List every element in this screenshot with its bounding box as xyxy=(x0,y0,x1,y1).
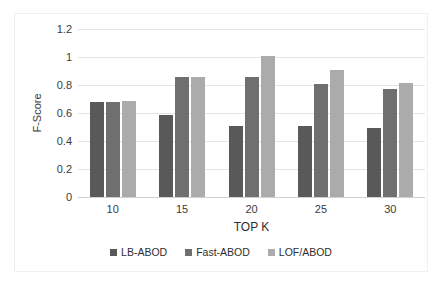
bar[interactable] xyxy=(122,101,136,197)
x-axis-tick-label: 20 xyxy=(217,203,286,215)
legend-item[interactable]: LOF/ABOD xyxy=(268,246,332,258)
y-axis-tick-label: 0 xyxy=(66,192,72,203)
bar-group-bars xyxy=(217,29,286,197)
bar-group: 10 xyxy=(78,29,147,197)
bar[interactable] xyxy=(159,115,173,197)
y-axis-tick-label: 0.4 xyxy=(57,136,72,147)
chart-legend: LB-ABODFast-ABODLOF/ABOD xyxy=(15,246,427,258)
bar[interactable] xyxy=(261,56,275,197)
legend-label: Fast-ABOD xyxy=(196,246,250,258)
bar[interactable] xyxy=(383,89,397,198)
legend-item[interactable]: Fast-ABOD xyxy=(185,246,250,258)
plot-region: 00.20.40.60.811.2 1015202530 xyxy=(78,29,425,197)
bar-groups: 1015202530 xyxy=(78,29,425,197)
legend-label: LOF/ABOD xyxy=(279,246,332,258)
y-axis-tick-label: 0.8 xyxy=(57,80,72,91)
legend-item[interactable]: LB-ABOD xyxy=(110,246,167,258)
bar-group-bars xyxy=(356,29,425,197)
bar-group-bars xyxy=(286,29,355,197)
legend-label: LB-ABOD xyxy=(121,246,167,258)
y-axis-title: F-Score xyxy=(31,93,43,132)
bar[interactable] xyxy=(330,70,344,197)
legend-swatch-icon xyxy=(110,249,117,256)
y-axis-tick-label: 0.2 xyxy=(57,164,72,175)
bar[interactable] xyxy=(175,77,189,197)
bar-group: 25 xyxy=(286,29,355,197)
bar-group-bars xyxy=(147,29,216,197)
bar-group: 15 xyxy=(147,29,216,197)
y-axis-tick-label: 1.2 xyxy=(57,24,72,35)
bar[interactable] xyxy=(245,77,259,197)
bar[interactable] xyxy=(367,128,381,197)
y-axis-tick-label: 0.6 xyxy=(57,108,72,119)
x-axis-title: TOP K xyxy=(78,220,425,234)
bar[interactable] xyxy=(106,102,120,197)
x-axis-tick-label: 10 xyxy=(78,203,147,215)
chart-frame: F-Score 00.20.40.60.811.2 1015202530 TOP… xyxy=(14,13,428,272)
bar[interactable] xyxy=(90,102,104,197)
x-axis-tick-label: 15 xyxy=(147,203,216,215)
legend-swatch-icon xyxy=(185,249,192,256)
bar[interactable] xyxy=(399,83,413,197)
bar-group-bars xyxy=(78,29,147,197)
legend-swatch-icon xyxy=(268,249,275,256)
bar[interactable] xyxy=(298,126,312,197)
bar[interactable] xyxy=(191,77,205,197)
bar[interactable] xyxy=(229,126,243,197)
bar[interactable] xyxy=(314,84,328,197)
x-axis-tick-label: 30 xyxy=(356,203,425,215)
x-axis-tick-label: 25 xyxy=(286,203,355,215)
y-axis-tick-label: 1 xyxy=(66,52,72,63)
bar-group: 20 xyxy=(217,29,286,197)
bar-group: 30 xyxy=(356,29,425,197)
gridline xyxy=(78,197,425,198)
